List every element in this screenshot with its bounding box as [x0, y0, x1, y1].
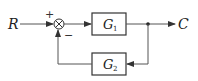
block-diagram: R + − G 1 C G 2 [0, 0, 198, 81]
feedback-branch-arrow [127, 24, 148, 64]
input-label: R [7, 16, 19, 32]
block-g2-symbol: G [103, 57, 113, 72]
minus-sign: − [64, 29, 73, 42]
block-g1-symbol: G [103, 17, 113, 32]
output-label: C [178, 16, 189, 32]
block-g1-subscript: 1 [113, 25, 117, 33]
summing-junction [54, 19, 64, 29]
block-g2: G 2 [92, 53, 126, 75]
block-g2-subscript: 2 [113, 65, 117, 73]
block-g1: G 1 [92, 13, 126, 35]
plus-sign: + [45, 8, 54, 21]
